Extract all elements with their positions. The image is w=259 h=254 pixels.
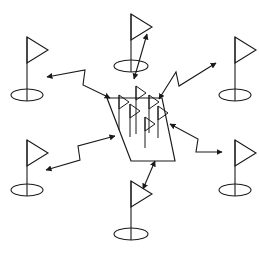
inner-flag-3 [130,104,140,137]
flag-bottom-right [219,140,256,196]
flag-bottom-center-banner-icon [131,181,152,207]
diagram-canvas [0,0,259,254]
flag-bottom-right-banner-icon [235,140,256,166]
flag-bottom-left [11,140,48,196]
outer-flags-layer [11,14,256,240]
central-region-layer [107,98,175,161]
inner-flag-1-banner-icon [119,95,129,109]
connector-top-left [47,70,110,98]
flag-top-right [219,37,256,101]
connector-bottom-left [46,136,115,170]
flag-top-center-banner-icon [131,14,152,40]
flag-top-center [114,14,152,72]
flag-top-left-banner-icon [27,37,48,63]
connector-top-right [159,63,216,99]
connector-bottom-right [170,124,222,152]
flag-network-diagram [0,0,259,254]
central-quadrilateral [107,98,175,161]
inner-flag-5 [145,117,155,148]
connectors-layer [46,34,222,189]
inner-flag-5-banner-icon [145,117,155,131]
flag-top-left [11,37,48,101]
connector-bottom-center [143,161,155,189]
inner-flag-1 [119,95,129,130]
flag-bottom-center [114,181,152,240]
flag-bottom-left-banner-icon [27,140,48,166]
inner-flag-3-banner-icon [130,104,140,118]
flag-top-right-banner-icon [235,37,256,63]
inner-flags-layer [119,86,168,148]
